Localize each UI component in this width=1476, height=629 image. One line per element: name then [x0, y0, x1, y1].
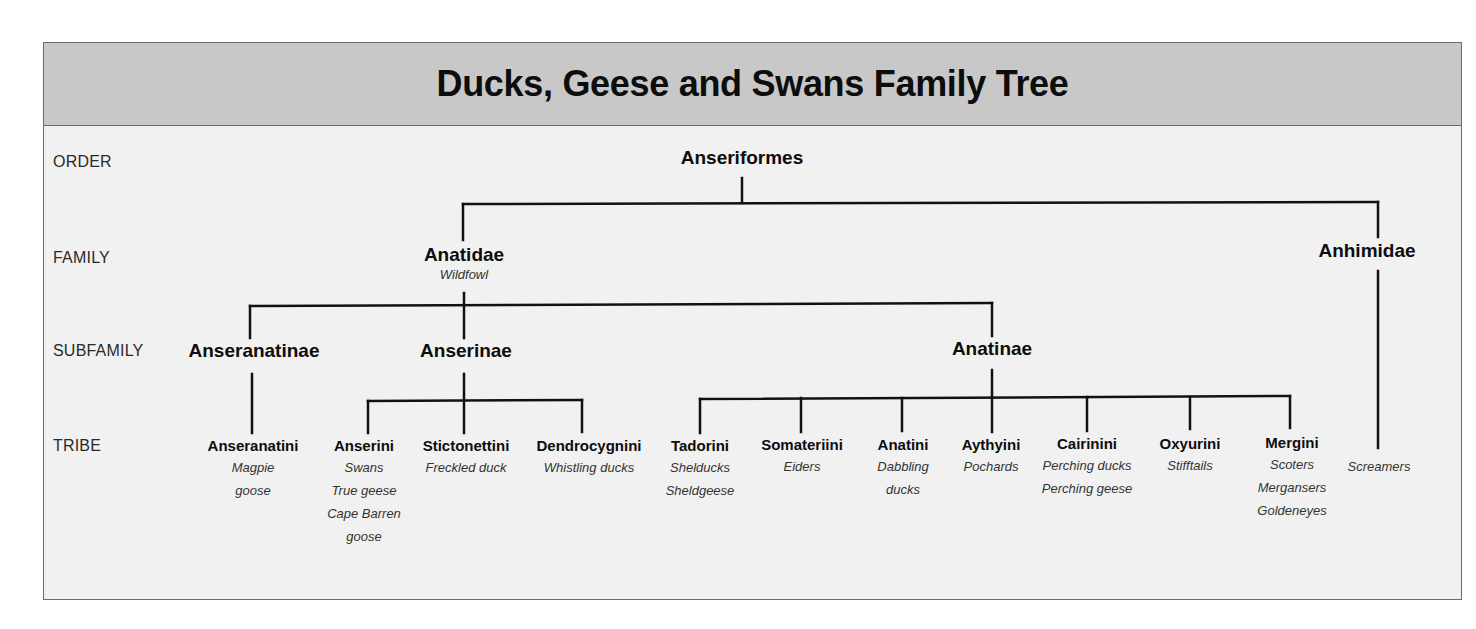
node-name: Mergini: [1257, 433, 1326, 453]
node-tribe-somateriini: Somateriini Eiders: [761, 435, 843, 478]
node-tribe-anatini: Anatini Dabbling ducks: [877, 435, 928, 501]
node-common-name: goose: [208, 479, 299, 502]
node-common-name: Magpie: [208, 456, 299, 479]
node-name: Cairinini: [1042, 434, 1132, 454]
node-name: Anseranatinae: [189, 340, 320, 362]
node-tribe-dendrocygnini: Dendrocygnini Whistling ducks: [536, 436, 641, 479]
node-subfamily-anserinae: Anserinae: [420, 340, 512, 362]
node-name: Anserinae: [420, 340, 512, 362]
node-common-name: Mergansers: [1257, 476, 1326, 499]
node-subfamily-anseranatinae: Anseranatinae: [189, 340, 320, 362]
node-tribe-screamers: Screamers: [1348, 455, 1411, 478]
node-common-name: Shelducks: [666, 456, 735, 479]
node-common-name: goose: [327, 525, 401, 548]
node-name: Dendrocygnini: [536, 436, 641, 456]
node-common-name: Cape Barren: [327, 502, 401, 525]
node-common-name: Goldeneyes: [1257, 499, 1326, 522]
node-subfamily-anatinae: Anatinae: [952, 338, 1032, 360]
node-name: Somateriini: [761, 435, 843, 455]
node-tribe-stictonettini: Stictonettini Freckled duck: [423, 436, 510, 479]
node-name: Stictonettini: [423, 436, 510, 456]
node-order-anseriformes: Anseriformes: [681, 147, 804, 169]
node-tribe-mergini: Mergini Scoters Mergansers Goldeneyes: [1257, 433, 1326, 522]
node-common-name: Swans: [327, 456, 401, 479]
node-common-name: Freckled duck: [423, 456, 510, 479]
node-tribe-aythyini: Aythyini Pochards: [962, 435, 1021, 478]
node-common-name: Pochards: [962, 455, 1021, 478]
node-common-name: Whistling ducks: [536, 456, 641, 479]
node-name: Anhimidae: [1318, 240, 1415, 262]
node-common-name: Wildfowl: [424, 266, 504, 284]
node-tribe-anserini: Anserini Swans True geese Cape Barren go…: [327, 436, 401, 548]
node-name: Anseriformes: [681, 147, 804, 169]
node-name: Aythyini: [962, 435, 1021, 455]
node-name: Tadorini: [666, 436, 735, 456]
node-common-name: ducks: [877, 478, 928, 501]
node-common-name: Perching geese: [1042, 477, 1132, 500]
node-family-anatidae: Anatidae Wildfowl: [424, 244, 504, 284]
node-tribe-oxyurini: Oxyurini Stifftails: [1160, 434, 1221, 477]
node-name: Anserini: [327, 436, 401, 456]
node-tribe-cairinini: Cairinini Perching ducks Perching geese: [1042, 434, 1132, 500]
node-common-name: Screamers: [1348, 455, 1411, 478]
node-tribe-tadorini: Tadorini Shelducks Sheldgeese: [666, 436, 735, 502]
node-name: Anatidae: [424, 244, 504, 266]
node-common-name: True geese: [327, 479, 401, 502]
node-common-name: Sheldgeese: [666, 479, 735, 502]
node-name: Oxyurini: [1160, 434, 1221, 454]
node-tribe-anseranatini: Anseranatini Magpie goose: [208, 436, 299, 502]
node-family-anhimidae: Anhimidae: [1318, 240, 1415, 262]
node-name: Anatinae: [952, 338, 1032, 360]
node-common-name: Perching ducks: [1042, 454, 1132, 477]
rank-label-family: FAMILY: [53, 249, 110, 267]
node-common-name: Dabbling: [877, 455, 928, 478]
node-name: Anatini: [877, 435, 928, 455]
rank-label-tribe: TRIBE: [53, 437, 101, 455]
tree-connectors: [0, 0, 1476, 629]
node-common-name: Eiders: [761, 455, 843, 478]
node-common-name: Stifftails: [1160, 454, 1221, 477]
rank-label-subfamily: SUBFAMILY: [53, 342, 143, 360]
node-common-name: Scoters: [1257, 453, 1326, 476]
rank-label-order: ORDER: [53, 153, 112, 171]
node-name: Anseranatini: [208, 436, 299, 456]
